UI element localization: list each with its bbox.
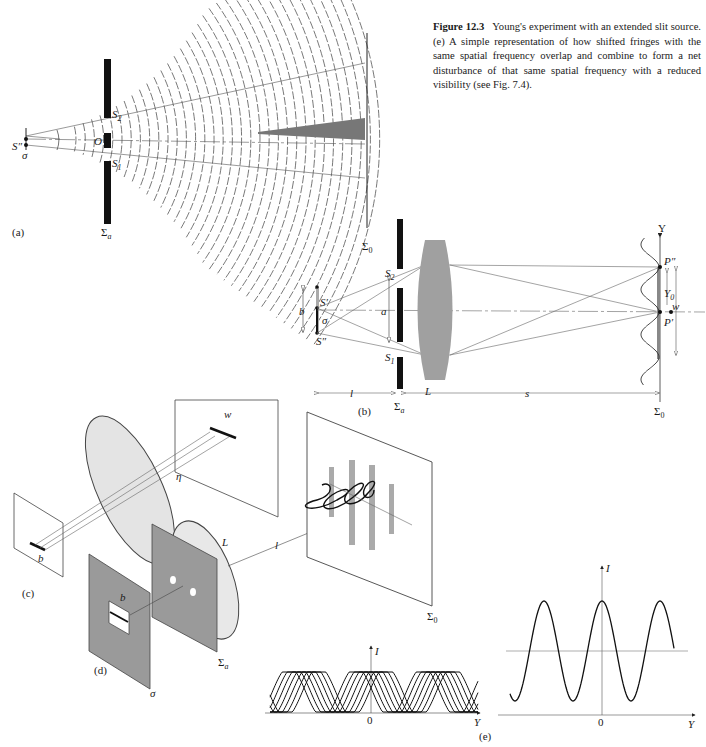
label-s2-b: S2 <box>385 267 395 282</box>
label-sigma-0-d: Σ0 <box>427 610 437 625</box>
label-l-distance: l <box>350 387 353 399</box>
label-w-c: w <box>224 408 232 420</box>
label-y-axis: Y <box>658 222 666 234</box>
label-o: O <box>94 135 102 147</box>
optical-axis <box>317 310 705 312</box>
label-s2: S2 <box>112 108 122 123</box>
label-l-d: L <box>221 536 228 548</box>
label-eta: η <box>176 470 181 482</box>
label-origin-left: 0 <box>367 714 373 726</box>
label-origin-right: 0 <box>598 716 604 728</box>
label-sigma-0: Σ0 <box>362 240 372 255</box>
panel-b: b S′ σ S″ a S2 S1 L l <box>299 219 705 420</box>
panel-e-tag: (e) <box>479 730 492 743</box>
panel-d-tag: (d) <box>94 664 107 677</box>
label-s1-b: S1 <box>385 351 395 366</box>
label-a: a <box>381 305 387 317</box>
label-s-distance: s <box>525 387 529 399</box>
label-y-right: Y <box>688 718 696 730</box>
aperture-middle <box>104 133 111 148</box>
panel-c-d: w η b (c) Σa b σ (d) L l Σ0 <box>14 400 437 699</box>
label-s-double-prime: S″ <box>12 140 23 152</box>
panel-c-tag: (c) <box>22 587 35 600</box>
label-i-left: I <box>374 645 380 657</box>
label-sigma-a-b: Σa <box>394 400 404 415</box>
aperture-lower <box>104 161 111 224</box>
fringe-shading <box>258 118 365 140</box>
label-l-d-dist: l <box>275 539 278 551</box>
label-sigma-a-d: Σa <box>218 656 228 671</box>
figure-diagram: S″ σ S2 S1 O Σa (a) Σ0 b S′ σ S″ <box>0 0 706 747</box>
label-sigma: σ <box>22 149 28 161</box>
label-i-right: I <box>605 562 611 574</box>
panel-a: S″ σ S2 S1 O Σa (a) Σ0 <box>12 0 380 345</box>
lens <box>418 240 453 380</box>
label-l-lens: L <box>424 385 431 397</box>
panel-e: I Y 0 I Y 0 (e) <box>265 562 696 743</box>
label-b-c: b <box>38 552 44 564</box>
label-y-left: Y <box>474 716 482 728</box>
label-sigma-0-b: Σ0 <box>654 405 664 420</box>
panel-b-tag: (b) <box>358 405 371 418</box>
label-w: w <box>672 300 680 312</box>
wave-arcs <box>74 0 379 345</box>
label-sigma-d: σ <box>150 687 156 699</box>
label-b: b <box>299 305 305 317</box>
shifted-fringe-curves <box>270 672 478 712</box>
panel-a-tag: (a) <box>12 226 25 239</box>
label-sigma-a: Σa <box>101 226 111 241</box>
label-sigma-b: σ <box>322 314 328 326</box>
label-p-prime: P′ <box>663 316 674 328</box>
label-s-double-prime-b: S″ <box>316 335 327 347</box>
label-p-double-prime: P″ <box>663 255 676 267</box>
label-b-d: b <box>120 591 126 603</box>
aperture-upper <box>104 59 111 118</box>
